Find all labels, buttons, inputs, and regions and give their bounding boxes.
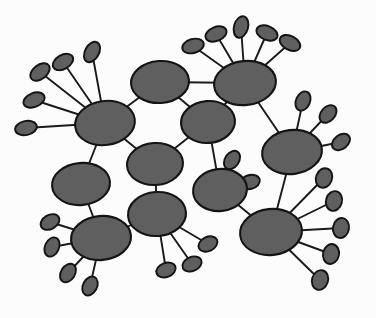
network-graph-canvas [0, 0, 376, 318]
graph-svg [0, 0, 376, 318]
